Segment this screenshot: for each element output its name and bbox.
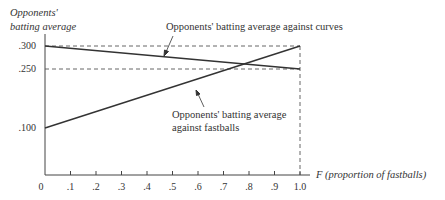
y-tick-300: .300: [0, 40, 36, 51]
fastballs-annotation-line1: Opponents' batting average: [172, 108, 286, 121]
y-axis-label-line1: Opponents': [10, 6, 58, 19]
fastballs-annotation-line2: against fastballs: [172, 121, 239, 134]
x-tick-7: .7: [220, 181, 228, 192]
y-tick-250: .250: [0, 63, 36, 74]
fastballs-arrow-icon: [196, 90, 204, 107]
x-tick-1: .1: [67, 181, 75, 192]
curves-line: [45, 46, 300, 69]
x-tick-5: .5: [169, 181, 177, 192]
x-tick-10: 1.0: [294, 181, 307, 192]
x-ticks: [71, 171, 301, 175]
x-tick-9: .9: [271, 181, 279, 192]
x-tick-6: .6: [194, 181, 202, 192]
x-tick-8: .8: [245, 181, 253, 192]
y-tick-100: .100: [0, 122, 36, 133]
x-tick-3: .3: [118, 181, 126, 192]
x-tick-2: .2: [92, 181, 100, 192]
x-axis-label: F (proportion of fastballs): [316, 168, 426, 181]
x-tick-0: 0: [39, 181, 44, 192]
y-axis-label-line2: batting average: [10, 20, 76, 33]
x-tick-4: .4: [143, 181, 151, 192]
curves-annotation: Opponents' batting average against curve…: [166, 20, 343, 33]
